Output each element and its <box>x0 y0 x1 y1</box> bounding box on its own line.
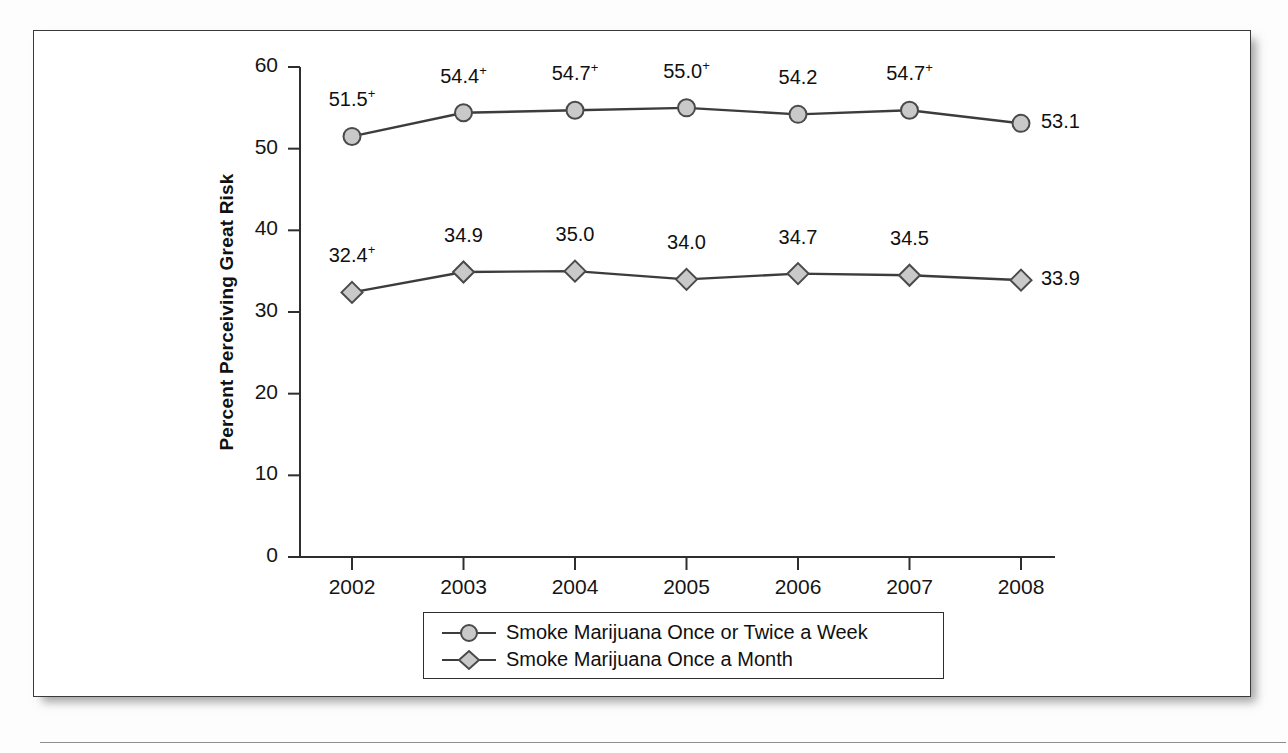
x-tick-label: 2005 <box>647 575 727 599</box>
x-tick-label: 2004 <box>535 575 615 599</box>
x-tick-label: 2002 <box>312 575 392 599</box>
data-point-label: 33.9 <box>1041 267 1080 290</box>
data-point-label: 34.0 <box>642 231 732 254</box>
chart-legend: Smoke Marijuana Once or Twice a Week Smo… <box>423 612 944 679</box>
y-tick-label: 10 <box>230 461 278 485</box>
x-tick-label: 2007 <box>870 575 950 599</box>
y-tick-label: 40 <box>230 216 278 240</box>
x-tick-label: 2006 <box>758 575 838 599</box>
y-tick-label: 30 <box>230 298 278 322</box>
page-background: Percent Perceiving Great Risk 0102030405… <box>0 0 1288 753</box>
x-tick-label: 2003 <box>424 575 504 599</box>
y-tick-label: 0 <box>230 543 278 567</box>
data-point-label: 34.9 <box>419 224 509 247</box>
y-tick-label: 20 <box>230 380 278 404</box>
y-tick-label: 60 <box>230 53 278 77</box>
y-tick-label: 50 <box>230 135 278 159</box>
data-point-label: 54.4+ <box>419 65 509 88</box>
data-point-label: 34.7 <box>753 226 843 249</box>
legend-label-month: Smoke Marijuana Once a Month <box>498 648 793 671</box>
data-point-label: 54.7+ <box>530 62 620 85</box>
legend-item-week: Smoke Marijuana Once or Twice a Week <box>440 619 943 646</box>
page-divider-rule <box>40 742 1286 743</box>
legend-marker-circle-icon <box>440 622 498 644</box>
data-point-label: 55.0+ <box>642 60 732 83</box>
legend-item-month: Smoke Marijuana Once a Month <box>440 646 943 673</box>
x-tick-label: 2008 <box>981 575 1061 599</box>
data-point-label: 32.4+ <box>307 244 397 267</box>
data-point-label: 54.7+ <box>865 62 955 85</box>
data-point-label: 54.2 <box>753 66 843 89</box>
data-point-label: 34.5 <box>865 227 955 250</box>
data-point-label: 51.5+ <box>307 88 397 111</box>
legend-marker-diamond-icon <box>440 649 498 671</box>
data-point-label: 35.0 <box>530 223 620 246</box>
data-point-label: 53.1 <box>1041 110 1080 133</box>
legend-label-week: Smoke Marijuana Once or Twice a Week <box>498 621 868 644</box>
